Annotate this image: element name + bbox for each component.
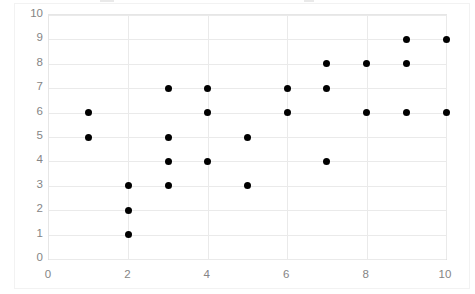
data-point[interactable] <box>323 158 330 165</box>
data-point[interactable] <box>204 85 211 92</box>
horizontal-gridline <box>49 113 446 114</box>
horizontal-gridline <box>49 210 446 211</box>
data-point[interactable] <box>244 134 251 141</box>
y-tick-label: 1 <box>3 228 43 240</box>
data-point[interactable] <box>403 60 410 67</box>
data-point[interactable] <box>204 109 211 116</box>
horizontal-gridline <box>49 88 446 89</box>
scatter-chart[interactable]: 109876543210 0246810 <box>0 0 475 294</box>
vertical-gridline <box>446 15 447 259</box>
horizontal-gridline <box>49 259 446 260</box>
x-tick-label: 8 <box>346 269 386 281</box>
plot-area[interactable] <box>48 14 447 260</box>
data-point[interactable] <box>204 158 211 165</box>
y-tick-label: 3 <box>3 179 43 191</box>
data-point[interactable] <box>244 182 251 189</box>
x-tick-label: 2 <box>107 269 147 281</box>
top-edge-artifact <box>100 0 114 2</box>
data-point[interactable] <box>165 134 172 141</box>
y-tick-label: 6 <box>3 106 43 118</box>
horizontal-gridline <box>49 39 446 40</box>
horizontal-gridline <box>49 235 446 236</box>
x-axis-tick-labels: 0246810 <box>48 269 447 285</box>
vertical-gridline <box>208 15 209 259</box>
y-tick-label: 0 <box>3 252 43 264</box>
vertical-gridline <box>287 15 288 259</box>
data-point[interactable] <box>85 109 92 116</box>
data-point[interactable] <box>403 36 410 43</box>
y-tick-label: 5 <box>3 130 43 142</box>
data-point[interactable] <box>363 109 370 116</box>
y-tick-label: 9 <box>3 33 43 45</box>
data-point[interactable] <box>443 109 450 116</box>
horizontal-gridline <box>49 15 446 16</box>
vertical-gridline <box>367 15 368 259</box>
data-point[interactable] <box>443 36 450 43</box>
data-point[interactable] <box>323 60 330 67</box>
y-tick-label: 10 <box>3 8 43 20</box>
x-tick-label: 4 <box>187 269 227 281</box>
data-point[interactable] <box>363 60 370 67</box>
data-point[interactable] <box>125 231 132 238</box>
top-edge-artifact <box>304 0 314 2</box>
data-point[interactable] <box>165 158 172 165</box>
data-point[interactable] <box>323 85 330 92</box>
y-axis-tick-labels: 109876543210 <box>0 14 43 260</box>
y-tick-label: 2 <box>3 203 43 215</box>
y-tick-label: 7 <box>3 81 43 93</box>
data-point[interactable] <box>284 109 291 116</box>
data-point[interactable] <box>165 85 172 92</box>
data-point[interactable] <box>165 182 172 189</box>
data-point[interactable] <box>125 182 132 189</box>
horizontal-gridline <box>49 161 446 162</box>
data-point[interactable] <box>85 134 92 141</box>
data-point[interactable] <box>403 109 410 116</box>
x-tick-label: 0 <box>28 269 68 281</box>
x-tick-label: 6 <box>266 269 306 281</box>
vertical-gridline <box>128 15 129 259</box>
y-tick-label: 4 <box>3 155 43 167</box>
x-tick-label: 10 <box>425 269 465 281</box>
y-tick-label: 8 <box>3 57 43 69</box>
data-point[interactable] <box>125 207 132 214</box>
data-point[interactable] <box>284 85 291 92</box>
horizontal-gridline <box>49 64 446 65</box>
